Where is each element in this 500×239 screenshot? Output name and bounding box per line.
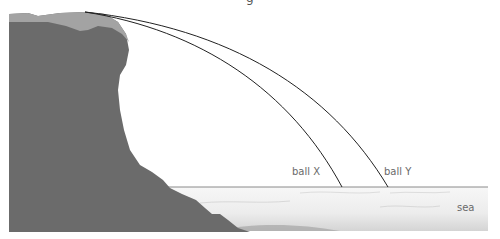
ball-x-label: ball X bbox=[292, 167, 320, 177]
sea-label: sea bbox=[457, 203, 475, 213]
title-fragment: g bbox=[246, 0, 254, 5]
ball-y-label: ball Y bbox=[384, 167, 411, 177]
diagram-canvas: g ball X ball Y sea bbox=[0, 0, 500, 239]
